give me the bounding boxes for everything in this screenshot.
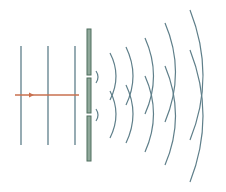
arrow-icon [29, 93, 34, 98]
diffraction-diagram [0, 0, 226, 192]
diffracted-wavefronts [96, 10, 203, 182]
incident-ray [15, 93, 79, 98]
barrier [87, 29, 91, 161]
